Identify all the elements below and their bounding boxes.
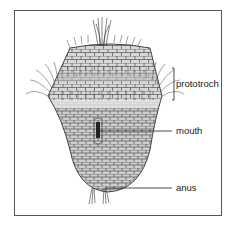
mouth-opening (96, 122, 100, 138)
larva-illustration (0, 0, 235, 227)
anus-label: anus (176, 183, 197, 193)
mouth-label: mouth (176, 126, 202, 136)
prototroch-label: prototroch (176, 79, 219, 89)
prototroch-bracket (172, 68, 174, 100)
larva-body (40, 40, 170, 200)
apical-tuft (93, 17, 111, 46)
